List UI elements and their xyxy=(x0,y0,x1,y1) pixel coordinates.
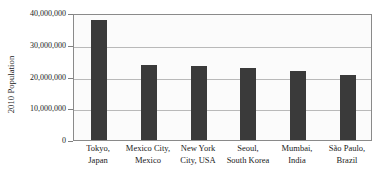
x-axis-labels: Tokyo,JapanMexico City,MexicoNew YorkCit… xyxy=(73,143,372,183)
y-axis-tick-label: 0 xyxy=(16,137,66,145)
y-axis-tick-labels: 010,000,00020,000,00030,000,00040,000,00… xyxy=(16,0,66,187)
bars-layer xyxy=(74,15,371,140)
bar xyxy=(240,68,256,140)
bar-chart-figure: 2010 Population 010,000,00020,000,00030,… xyxy=(0,0,388,187)
y-axis-tick-label: 10,000,000 xyxy=(16,105,66,113)
x-axis-label-line-1: São Paulo, xyxy=(316,143,378,155)
x-axis-label-line-2: Brazil xyxy=(316,155,378,167)
bar xyxy=(290,71,306,140)
bar xyxy=(141,65,157,140)
y-axis-tick-label: 30,000,000 xyxy=(16,42,66,50)
y-axis-tick-label: 20,000,000 xyxy=(16,74,66,82)
x-axis-category-label: São Paulo,Brazil xyxy=(316,143,378,166)
plot-area xyxy=(73,14,372,141)
bar xyxy=(91,20,107,140)
bar xyxy=(191,66,207,140)
y-axis-tick-mark xyxy=(68,141,73,142)
y-axis-tick-label: 40,000,000 xyxy=(16,10,66,18)
bar xyxy=(340,75,356,140)
